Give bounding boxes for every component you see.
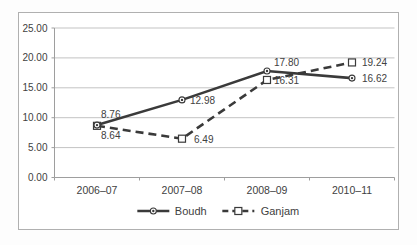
- y-tick-label: 5.00: [28, 142, 48, 153]
- data-point-marker-square-ganjam: [264, 76, 271, 83]
- x-tick-label: 2007–08: [162, 184, 203, 196]
- x-tick-label: 2006–07: [77, 184, 118, 196]
- legend-item-ganjam: Ganjam: [222, 205, 300, 217]
- x-tick-label: 2010–11: [332, 184, 372, 196]
- data-value-label: 17.80: [274, 57, 299, 68]
- x-tick-label: 2008–09: [247, 184, 288, 196]
- data-value-label: 16.31: [274, 75, 299, 86]
- y-tick-label: 15.00: [22, 82, 47, 93]
- data-value-label: 6.49: [194, 134, 214, 145]
- y-tick-label: 20.00: [22, 52, 47, 63]
- legend-label-boudh: Boudh: [175, 205, 207, 217]
- data-value-label: 12.98: [190, 95, 215, 106]
- legend-swatch-ganjam: [222, 205, 256, 217]
- data-point-marker-square-ganjam: [179, 135, 186, 142]
- data-value-label: 16.62: [362, 73, 387, 84]
- data-value-label: 8.64: [101, 130, 121, 141]
- legend-item-boudh: Boudh: [136, 205, 207, 217]
- data-value-label: 8.76: [101, 109, 121, 120]
- legend-swatch-boudh: [136, 205, 170, 217]
- chart-page: 0.005.0010.0015.0020.0025.002006–072007–…: [0, 0, 417, 245]
- data-point-marker-dot-boudh: [266, 70, 268, 72]
- data-point-marker-dot-boudh: [96, 124, 98, 126]
- legend-marker-square-ganjam: [235, 208, 242, 215]
- y-tick-label: 25.00: [22, 23, 47, 34]
- legend-marker-dot-boudh: [152, 210, 154, 212]
- legend-label-ganjam: Ganjam: [261, 205, 300, 217]
- data-point-marker-dot-boudh: [181, 99, 183, 101]
- data-point-marker-dot-boudh: [351, 77, 353, 79]
- chart-legend: Boudh Ganjam: [136, 205, 299, 217]
- series-line-boudh: [97, 71, 352, 125]
- data-value-label: 19.24: [362, 57, 387, 68]
- y-tick-label: 0.00: [28, 172, 48, 183]
- data-point-marker-square-ganjam: [349, 59, 356, 66]
- y-tick-label: 10.00: [22, 112, 47, 123]
